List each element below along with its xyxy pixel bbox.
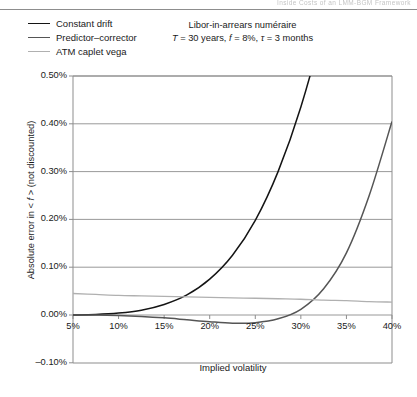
y-axis-label-pre: Absolute error in < <box>26 201 36 280</box>
data-series <box>73 0 392 323</box>
series-line <box>73 121 392 323</box>
x-tick-label: 15% <box>144 321 184 331</box>
y-tick-label: 0.50% <box>21 70 67 80</box>
x-tick-label: 20% <box>190 321 230 331</box>
x-axis-label: Implied volatility <box>73 362 393 373</box>
plot-area <box>0 0 417 397</box>
x-tick-label: 5% <box>53 321 93 331</box>
series-line <box>73 0 392 315</box>
y-axis-label-post: > (not discounted) <box>26 121 36 198</box>
x-tick-label: 25% <box>235 321 275 331</box>
series-line <box>73 293 392 302</box>
y-tick-marks <box>69 76 73 363</box>
gridlines <box>73 76 392 315</box>
x-tick-label: 10% <box>99 321 139 331</box>
x-tick-label: 40% <box>372 321 412 331</box>
y-axis-label: Absolute error in < f > (not discounted) <box>26 85 36 315</box>
x-tick-label: 30% <box>281 321 321 331</box>
y-tick-label: –0.10% <box>21 357 67 367</box>
chart-container: 0.50%0.40%0.30%0.20%0.10%0.00%–0.10% 5%1… <box>0 0 417 397</box>
x-tick-label: 35% <box>326 321 366 331</box>
y-axis-label-symbol: f <box>26 198 36 201</box>
